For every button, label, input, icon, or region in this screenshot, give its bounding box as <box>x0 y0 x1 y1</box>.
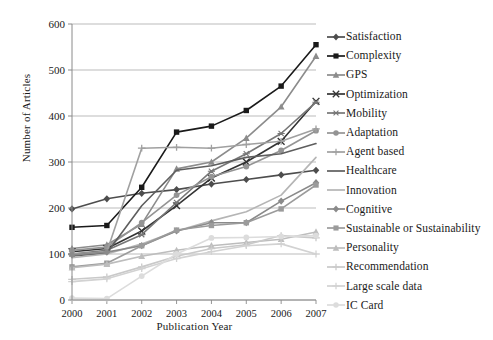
legend-marker-triangle-icon <box>326 68 346 82</box>
svg-text:2003: 2003 <box>166 308 187 318</box>
legend-marker-diamond-icon <box>326 30 346 44</box>
legend-marker-none-icon <box>326 183 346 197</box>
legend-label: Innovation <box>346 184 397 197</box>
legend-marker-circle-icon <box>326 126 346 140</box>
legend-label: Personality <box>346 241 399 254</box>
legend-label: Satisfaction <box>346 30 402 43</box>
svg-text:2000: 2000 <box>62 308 83 318</box>
legend-label: Healthcare <box>346 164 397 177</box>
x-tick-labels: 20002001200220032004200520062007 <box>62 308 327 318</box>
legend-item: Complexity <box>326 46 493 65</box>
y-tick-labels: 0100200300400500600 <box>49 18 66 306</box>
legend-item: GPS <box>326 65 493 84</box>
svg-text:2007: 2007 <box>306 308 327 318</box>
legend-label: IC Card <box>346 299 383 312</box>
legend-item: Healthcare <box>326 161 493 180</box>
svg-text:2005: 2005 <box>236 308 257 318</box>
legend-label: Large scale data <box>346 280 422 293</box>
svg-text:100: 100 <box>49 248 66 260</box>
svg-text:600: 600 <box>49 18 66 30</box>
legend-label: Complexity <box>346 49 401 62</box>
legend-marker-square-icon <box>326 221 346 235</box>
chart-figure: Number of Articles 0100200300400500600 2… <box>0 0 493 340</box>
svg-text:400: 400 <box>49 110 66 122</box>
legend-marker-diamond-icon <box>326 202 346 216</box>
x-axis-title: Publication Year <box>72 320 317 332</box>
legend-marker-circle-icon <box>326 298 346 312</box>
legend-marker-triangle-icon <box>326 241 346 255</box>
legend-item: IC Card <box>326 296 493 315</box>
legend-marker-none-icon <box>326 164 346 178</box>
legend-item: Sustainable or Sustainability <box>326 219 493 238</box>
legend-marker-square-icon <box>326 49 346 63</box>
legend-item: Mobility <box>326 104 493 123</box>
svg-text:500: 500 <box>49 64 66 76</box>
svg-text:2006: 2006 <box>271 308 292 318</box>
legend-marker-plus-icon <box>326 279 346 293</box>
plot-area: 0100200300400500600 20002001200220032004… <box>0 0 340 318</box>
legend-label: Recommendation <box>346 260 429 273</box>
legend-label: Optimization <box>346 88 408 101</box>
chart-legend: SatisfactionComplexityGPSOptimizationMob… <box>326 27 493 315</box>
legend-marker-cross-icon <box>326 87 346 101</box>
svg-text:2002: 2002 <box>131 308 152 318</box>
data-series-layer <box>68 42 320 302</box>
svg-text:200: 200 <box>49 202 66 214</box>
legend-marker-plus-icon <box>326 145 346 159</box>
legend-item: Innovation <box>326 181 493 200</box>
legend-label: Adaptation <box>346 126 398 139</box>
legend-item: Satisfaction <box>326 27 493 46</box>
svg-text:0: 0 <box>60 294 66 306</box>
svg-text:2004: 2004 <box>201 308 223 318</box>
legend-label: Mobility <box>346 107 387 120</box>
legend-label: Sustainable or Sustainability <box>346 222 481 235</box>
legend-item: Recommendation <box>326 257 493 276</box>
legend-label: GPS <box>346 68 367 81</box>
legend-item: Optimization <box>326 85 493 104</box>
legend-item: Personality <box>326 238 493 257</box>
legend-item: Adaptation <box>326 123 493 142</box>
chart-svg: 0100200300400500600 20002001200220032004… <box>0 0 340 318</box>
legend-marker-star-icon <box>326 106 346 120</box>
legend-item: Large scale data <box>326 276 493 295</box>
legend-marker-plus-icon <box>326 260 346 274</box>
legend-item: Cognitive <box>326 200 493 219</box>
legend-item: Agent based <box>326 142 493 161</box>
legend-label: Cognitive <box>346 203 392 216</box>
legend-label: Agent based <box>346 145 404 158</box>
svg-text:2001: 2001 <box>96 308 117 318</box>
gridlines <box>72 24 316 300</box>
svg-text:300: 300 <box>49 156 66 168</box>
